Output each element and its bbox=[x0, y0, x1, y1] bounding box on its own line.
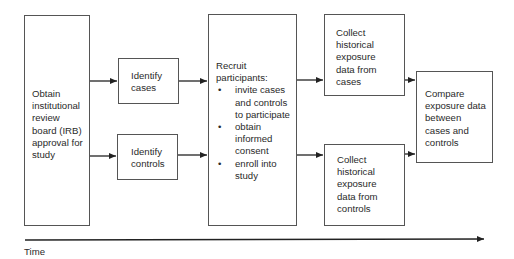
text-line: review bbox=[32, 112, 83, 124]
step-collect-controls: Collect historical exposure data from co… bbox=[324, 144, 405, 226]
text-line: cases bbox=[336, 76, 377, 88]
step-recruit-participants: Recruit participants: • invite cases and… bbox=[208, 14, 297, 226]
step-collect-cases: Collect historical exposure data from ca… bbox=[324, 14, 405, 96]
text-line: between bbox=[425, 112, 486, 124]
text-line: board (IRB) bbox=[32, 125, 83, 137]
text-line: invite cases bbox=[235, 84, 296, 96]
step-compare-exposure: Compare exposure data between cases and … bbox=[416, 71, 493, 163]
text-line: Collect bbox=[336, 27, 377, 39]
text-line: Compare bbox=[425, 88, 486, 100]
text-line: controls bbox=[337, 203, 378, 215]
bullet-consent: • obtain informed consent bbox=[216, 121, 296, 158]
text-line: informed bbox=[235, 133, 296, 145]
text-line: historical bbox=[337, 166, 378, 178]
text-line: study bbox=[32, 149, 83, 161]
step-identify-cases: Identify cases bbox=[118, 58, 179, 104]
bullet-icon: • bbox=[218, 121, 221, 133]
text-line: enroll into bbox=[235, 158, 296, 170]
text-line: and controls bbox=[235, 97, 296, 109]
text-line: controls bbox=[131, 158, 165, 170]
text-line: approval for bbox=[32, 137, 83, 149]
text-line: obtain bbox=[235, 121, 296, 133]
text-line: data from bbox=[337, 191, 378, 203]
text-line: Recruit bbox=[216, 60, 296, 72]
time-axis-arrow bbox=[25, 239, 484, 240]
text-line: institutional bbox=[32, 100, 83, 112]
text-line: Identify bbox=[131, 146, 165, 158]
text-line: historical bbox=[336, 39, 377, 51]
bullet-icon: • bbox=[218, 84, 221, 96]
text-line: cases bbox=[131, 82, 162, 94]
text-line: controls bbox=[425, 137, 486, 149]
text-line: consent bbox=[235, 145, 296, 157]
bullet-icon: • bbox=[218, 158, 221, 170]
text-line: exposure bbox=[336, 51, 377, 63]
text-line: Identify bbox=[131, 70, 162, 82]
text-line: data from bbox=[336, 64, 377, 76]
recruit-bullet-list: • invite cases and controls to participa… bbox=[216, 84, 296, 182]
text-line: cases and bbox=[425, 125, 486, 137]
text-line: Obtain bbox=[32, 88, 83, 100]
text-line: exposure bbox=[337, 178, 378, 190]
text-line: to participate bbox=[235, 109, 296, 121]
text-line: participants: bbox=[216, 72, 296, 84]
text-line: Collect bbox=[337, 154, 378, 166]
time-axis-label: Time bbox=[24, 246, 45, 257]
text-line: exposure data bbox=[425, 100, 486, 112]
text-line: study bbox=[235, 170, 296, 182]
bullet-invite: • invite cases and controls to participa… bbox=[216, 84, 296, 121]
step-identify-controls: Identify controls bbox=[117, 134, 178, 180]
bullet-enroll: • enroll into study bbox=[216, 158, 296, 182]
step-irb-approval: Obtain institutional review board (IRB) … bbox=[24, 15, 90, 226]
